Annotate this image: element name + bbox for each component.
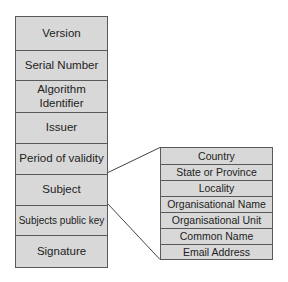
field-label: Signature [37, 245, 86, 258]
field-subject: Subject [16, 174, 107, 205]
field-label: Subject [42, 183, 80, 196]
field-label: Common Name [180, 230, 254, 242]
field-label: Locality [199, 182, 235, 194]
field-label: State or Province [176, 166, 257, 178]
field-algorithm-identifier: Algorithm Identifier [16, 80, 107, 112]
field-version: Version [16, 17, 107, 50]
field-serial-number: Serial Number [16, 50, 107, 80]
field-label: Version [42, 27, 80, 40]
field-label: Issuer [46, 121, 77, 134]
field-period-of-validity: Period of validity [16, 143, 107, 174]
field-label: Organisational Unit [172, 214, 261, 226]
field-label: Algorithm Identifier [32, 83, 92, 109]
field-signature: Signature [16, 235, 107, 267]
field-label: Subjects public key [19, 215, 105, 227]
field-label: Email Address [183, 246, 250, 258]
subject-common-name: Common Name [161, 228, 272, 244]
subject-organisational-unit: Organisational Unit [161, 212, 272, 228]
field-label: Serial Number [25, 59, 99, 72]
field-label: Country [198, 150, 235, 162]
connector-top [108, 148, 160, 173]
connector-bottom [108, 204, 160, 260]
subject-organisational-name: Organisational Name [161, 196, 272, 212]
subject-email-address: Email Address [161, 244, 272, 259]
field-label: Period of validity [19, 152, 103, 165]
field-issuer: Issuer [16, 112, 107, 143]
subject-details: Country State or Province Locality Organ… [160, 147, 273, 260]
subject-state-or-province: State or Province [161, 164, 272, 180]
field-subjects-public-key: Subjects public key [16, 205, 107, 235]
subject-country: Country [161, 148, 272, 164]
certificate-structure: Version Serial Number Algorithm Identifi… [15, 16, 108, 268]
subject-locality: Locality [161, 180, 272, 196]
field-label: Organisational Name [167, 198, 266, 210]
